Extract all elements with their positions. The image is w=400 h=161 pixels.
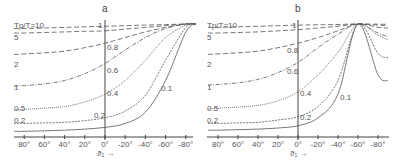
x-tick-label: -20° [311,140,326,149]
panel-a-y-0.6: 0.6 [107,66,119,75]
panel-b-legend-title: Tp/T=10 [207,21,238,30]
x-tick-label: 0° [294,140,302,149]
panel-b-label-0.2: 0.2 [207,116,219,125]
figure: a 80°60°40°20°0°-20°-40°-60°-80° Tp/T=10… [0,0,400,161]
panel-b-label-0.1: 0.1 [340,93,352,102]
x-tick-label: 40° [59,140,71,149]
x-tick-label: 20° [272,140,284,149]
panel-a-y-0.4: 0.4 [107,89,119,98]
panel-a-label-1: 1 [14,83,19,92]
panel-b-y-0.4: 0.4 [300,89,312,98]
x-tick-label: 60° [38,140,50,149]
panel-a-y-0.2: 0.2 [94,111,106,120]
panel-a-label-5: 5 [14,33,19,42]
panel-b: b 80°60°40°20°0°-20°-40°-60°-80° Tp/T=10… [207,3,389,158]
x-tick-label: 80° [18,140,30,149]
x-tick-label: -60° [158,140,173,149]
x-tick-label: -60° [351,140,366,149]
panel-a: a 80°60°40°20°0°-20°-40°-60°-80° Tp/T=10… [14,3,196,158]
panel-a-label-0.1: 0.1 [161,84,173,93]
panel-a-label-0.5: 0.5 [14,104,26,113]
panel-b-y-0.6: 0.6 [287,67,299,76]
panel-a-legend-title: Tp/T=10 [14,21,45,30]
panel-b-x-label: ϑ₁ → [290,149,307,158]
panel-a-label-2: 2 [14,60,19,69]
panel-a-x-label: ϑ₁ → [97,149,114,158]
panel-a-y-1: 1 [98,21,103,30]
x-tick-label: -80° [178,140,193,149]
chart-canvas: a 80°60°40°20°0°-20°-40°-60°-80° Tp/T=10… [0,0,400,161]
x-tick-label: 40° [252,140,264,149]
panel-b-label-5: 5 [207,33,212,42]
panel-b-label-1: 1 [207,83,212,92]
panel-a-label-0.2: 0.2 [14,116,26,125]
panel-a-title: a [102,3,108,14]
x-tick-label: 0° [101,140,109,149]
panel-a-y-0.8: 0.8 [107,43,119,52]
panel-b-label-0.5: 0.5 [207,104,219,113]
x-tick-label: 60° [232,140,244,149]
x-tick-label: -40° [138,140,153,149]
x-tick-label: 80° [212,140,224,149]
panel-b-title: b [295,3,301,14]
panel-b-label-2: 2 [207,60,212,69]
x-tick-label: -20° [118,140,133,149]
panel-b-y-1: 1 [292,21,297,30]
x-tick-label: 20° [79,140,91,149]
x-tick-label: -80° [371,140,386,149]
panel-b-y-0.2: 0.2 [300,113,312,122]
x-tick-label: -40° [331,140,346,149]
panel-b-y-0.8: 0.8 [287,46,299,55]
